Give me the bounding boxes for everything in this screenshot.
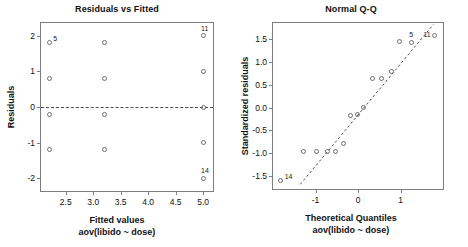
data-point	[102, 40, 107, 45]
x-tick-label: 3.0	[87, 197, 99, 207]
diagnostic-plot-figure: Residuals vs Fitted 210-1-22.53.03.54.04…	[0, 0, 468, 247]
axis-title-x-right: Theoretical Quantiles	[234, 212, 468, 224]
y-tick-label: -2	[27, 173, 35, 183]
y-tick-label: -0.5	[252, 125, 267, 135]
panel-normal-qq: Normal Q-Q 1.51.00.50.0-0.5-1.0-1.5-1011…	[234, 0, 468, 247]
data-point	[201, 105, 206, 110]
y-tick	[269, 176, 273, 177]
axis-title-y-left: Residuals	[6, 86, 16, 129]
plot-area-left: 210-1-22.53.03.54.04.55.051114	[40, 22, 214, 192]
x-tick	[148, 191, 149, 195]
x-tick	[401, 189, 402, 193]
data-point	[325, 149, 330, 154]
point-label: 14	[201, 167, 209, 174]
y-tick	[269, 108, 273, 109]
panel-title-left: Residuals vs Fitted	[0, 4, 234, 14]
fitted-trend-line	[41, 23, 213, 191]
panel-title-right: Normal Q-Q	[234, 4, 468, 14]
y-tick-label: 1	[30, 66, 35, 76]
x-tick-label: 0	[356, 195, 361, 205]
y-tick-label: -1	[27, 138, 35, 148]
y-tick-label: 1.5	[255, 34, 267, 44]
y-tick	[269, 85, 273, 86]
x-tick-label: 4.0	[142, 197, 154, 207]
x-tick	[358, 189, 359, 193]
qq-reference-line	[273, 23, 443, 189]
axis-sublabel-x-right: aov(libido ~ dose)	[234, 224, 468, 236]
data-point	[333, 149, 338, 154]
x-tick	[316, 189, 317, 193]
data-point	[201, 140, 206, 145]
y-tick-label: 2	[30, 31, 35, 41]
data-point	[102, 112, 107, 117]
y-tick	[37, 36, 41, 37]
point-label: 5	[53, 35, 57, 42]
x-tick-label: 3.5	[115, 197, 127, 207]
data-point	[201, 33, 206, 38]
axis-sublabel-x-left: aov(libido ~ dose)	[0, 226, 234, 238]
data-point	[47, 112, 52, 117]
y-tick-label: -1.5	[252, 171, 267, 181]
y-tick	[37, 107, 41, 108]
data-point	[379, 76, 384, 81]
x-tick-label: 4.5	[170, 197, 182, 207]
y-tick	[269, 39, 273, 40]
axis-title-x-left: Fitted values	[0, 214, 234, 226]
y-tick-label: 0	[30, 102, 35, 112]
x-tick	[121, 191, 122, 195]
data-point	[432, 33, 437, 38]
x-tick-label: -1	[312, 195, 320, 205]
x-tick	[93, 191, 94, 195]
x-tick-label: 2.5	[60, 197, 72, 207]
y-tick	[37, 143, 41, 144]
point-label: 11	[424, 31, 431, 38]
y-tick	[269, 153, 273, 154]
y-tick	[269, 130, 273, 131]
data-point	[102, 76, 107, 81]
data-point	[47, 40, 52, 45]
data-point	[201, 176, 206, 181]
plot-area-right: 1.51.00.50.0-0.5-1.0-1.5-10114511	[272, 22, 444, 190]
y-tick-label: 0.0	[255, 103, 267, 113]
y-tick-label: -1.0	[252, 148, 267, 158]
y-tick	[37, 178, 41, 179]
panel-residuals-vs-fitted: Residuals vs Fitted 210-1-22.53.03.54.04…	[0, 0, 234, 247]
data-point	[409, 40, 414, 45]
x-tick	[66, 191, 67, 195]
y-tick	[37, 71, 41, 72]
point-label: 14	[285, 173, 293, 180]
data-point	[389, 69, 394, 74]
y-tick-label: 1.0	[255, 57, 267, 67]
data-point	[355, 112, 360, 117]
point-label: 11	[201, 25, 208, 32]
axis-title-y-right: Standardized residuals	[240, 57, 250, 156]
y-tick-label: 0.5	[255, 80, 267, 90]
x-tick	[176, 191, 177, 195]
point-label: 5	[409, 31, 413, 38]
x-tick-label: 1	[398, 195, 403, 205]
data-point	[397, 39, 402, 44]
x-tick-label: 5.0	[197, 197, 209, 207]
data-point	[47, 76, 52, 81]
y-tick	[269, 62, 273, 63]
data-point	[201, 69, 206, 74]
x-tick	[203, 191, 204, 195]
